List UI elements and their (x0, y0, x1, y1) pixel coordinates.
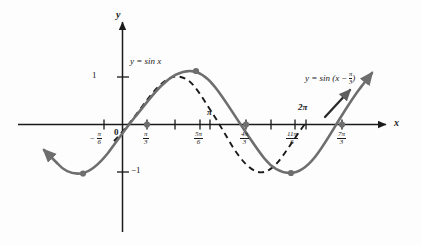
y-tick-label-negative-one: −1 (131, 166, 141, 175)
x-tick-label-two-pi: 2π (298, 103, 307, 112)
tick-den-five-pi-over-6: 6 (194, 139, 203, 146)
sine-graph-figure: y x 1 −1 0 − π 6 π 3 5π 6 4π 3 11π 6 (0, 0, 421, 245)
origin-label: 0 (114, 128, 119, 137)
key-point-zero-7pi-3 (339, 121, 345, 127)
x-tick-label-seven-pi-over-3: 7π 3 (337, 131, 346, 147)
y-tick-label-one: 1 (92, 71, 97, 80)
y-axis-label: y (116, 10, 120, 20)
key-point-zero-4pi-3 (243, 121, 249, 127)
curve-label-sin-x-minus-pi-over-3: y = sin (x − π 3 ) (305, 71, 355, 86)
curve-sin-x-minus-pi-over-3 (57, 71, 361, 174)
x-tick-label-pi-over-3: π 3 (143, 131, 149, 147)
solid-curve-left-arrow (44, 150, 57, 163)
x-tick-label-neg-pi-over-6: − π 6 (90, 131, 102, 147)
solid-label-suffix: ) (352, 73, 355, 83)
plot-canvas (0, 0, 421, 245)
solid-label-prefix: y = sin (x (305, 73, 339, 83)
solid-label-pointer (325, 90, 350, 117)
solid-curve-right-arrow (361, 73, 372, 87)
key-point-max-5pi-6 (193, 68, 199, 74)
x-tick-label-pi: π (207, 108, 212, 117)
tick-sign-neg-pi-over-6: − (90, 134, 95, 143)
key-point-zero-pi-3 (144, 121, 150, 127)
x-tick-label-four-pi-over-3: 4π 3 (240, 131, 249, 147)
tick-den-seven-pi-over-3: 3 (337, 139, 346, 146)
x-axis-label: x (394, 118, 399, 128)
key-point-min-neg-pi-6 (80, 170, 86, 176)
x-tick-label-five-pi-over-6: 5π 6 (194, 131, 203, 147)
tick-den-four-pi-over-3: 3 (240, 139, 249, 146)
tick-den-eleven-pi-over-6: 6 (286, 139, 298, 146)
tick-den-pi-over-3: 3 (143, 139, 149, 146)
x-tick-label-eleven-pi-over-6: 11π 6 (286, 131, 298, 147)
curve-label-sin-x: y = sin x (130, 57, 161, 66)
tick-den-neg-pi-over-6: 6 (97, 139, 103, 146)
key-point-min-11pi-6 (288, 170, 294, 176)
